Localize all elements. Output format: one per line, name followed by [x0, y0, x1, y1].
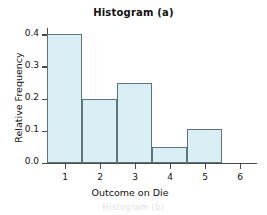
y-tick-label: 0.2	[25, 92, 39, 102]
y-tick: 0.0	[42, 163, 47, 164]
histogram-bar	[117, 83, 152, 163]
x-axis-line	[47, 163, 257, 164]
x-tick-label: 3	[127, 172, 144, 182]
x-tick: 3	[135, 164, 136, 169]
x-tick-label: 1	[57, 172, 74, 182]
x-tick-label: 4	[162, 172, 179, 182]
histogram-figure: Histogram (a) Relative Frequency 0.00.10…	[0, 0, 267, 215]
histogram-bar	[47, 34, 82, 162]
x-tick: 1	[65, 164, 66, 169]
x-tick: 5	[205, 164, 206, 169]
y-axis-label: Relative Frequency	[13, 33, 24, 163]
x-tick-label: 2	[92, 172, 109, 182]
x-tick: 2	[100, 164, 101, 169]
x-tick-label: 6	[232, 172, 249, 182]
plot-area: 0.00.10.20.30.4 123456	[47, 28, 259, 168]
x-tick: 6	[240, 164, 241, 169]
histogram-bar	[152, 147, 187, 163]
y-tick-label: 0.4	[25, 28, 39, 38]
cropped-footer-text: Histogram (b)	[0, 203, 267, 212]
chart-title: Histogram (a)	[0, 7, 267, 18]
x-axis-label: Outcome on Die	[30, 187, 230, 198]
x-tick-label: 5	[197, 172, 214, 182]
y-tick-label: 0.1	[25, 124, 39, 134]
histogram-bar	[82, 99, 117, 163]
histogram-bar	[187, 129, 222, 163]
y-tick-label: 0.0	[25, 156, 39, 166]
y-tick-label: 0.3	[25, 60, 39, 70]
x-tick: 4	[170, 164, 171, 169]
